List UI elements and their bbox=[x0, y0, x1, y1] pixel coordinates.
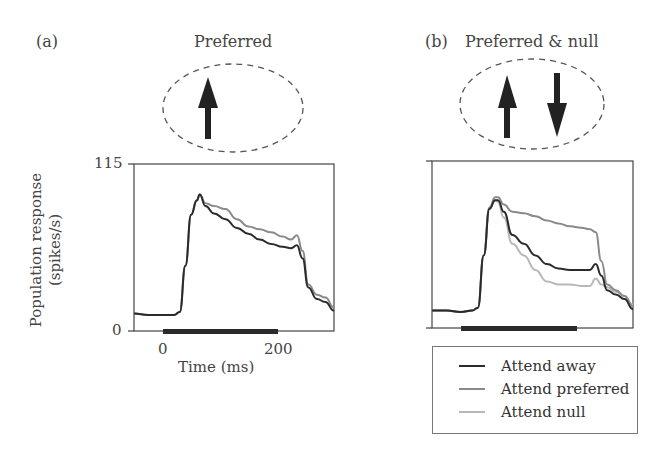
down-arrow-icon bbox=[547, 73, 567, 137]
legend-item-attend-away: Attend away bbox=[433, 355, 596, 377]
legend-swatch bbox=[459, 388, 485, 390]
up-arrow-icon bbox=[198, 77, 218, 139]
legend-swatch bbox=[459, 365, 485, 367]
up-arrow-icon bbox=[498, 75, 517, 138]
series-line-attend-away bbox=[432, 200, 633, 312]
legend-item-attend-preferred: Attend preferred bbox=[433, 378, 629, 400]
legend-label: Attend away bbox=[501, 357, 596, 375]
legend-label: Attend null bbox=[501, 403, 585, 421]
stimulus-duration-bar bbox=[461, 326, 577, 331]
series-line-attend-null bbox=[432, 200, 633, 312]
panel-b-axes bbox=[426, 161, 633, 331]
series-line-attend-preferred bbox=[134, 195, 334, 316]
legend-swatch bbox=[459, 411, 485, 413]
legend: Attend away Attend preferred Attend null bbox=[432, 346, 638, 434]
legend-label: Attend preferred bbox=[501, 380, 629, 398]
panel-a-stimulus-aperture bbox=[163, 64, 303, 152]
panel-a-curves bbox=[134, 195, 334, 316]
panel-b-curves bbox=[432, 197, 633, 312]
stimulus-duration-bar bbox=[163, 329, 278, 334]
panel-a-axes bbox=[128, 164, 334, 334]
panel-b-stimulus-aperture bbox=[460, 59, 604, 149]
legend-item-attend-null: Attend null bbox=[433, 401, 585, 423]
